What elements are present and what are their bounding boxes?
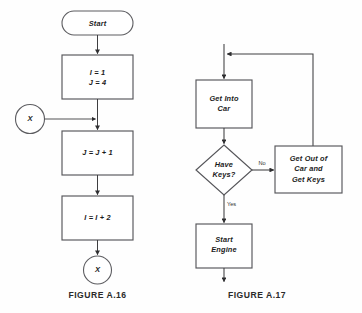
figure-a17-caption: FIGURE A.17	[228, 290, 286, 300]
process-box-increment-i-label: I = I + 2	[84, 213, 111, 222]
process-box-init-label-line2: J = 4	[89, 78, 106, 87]
process-box-get-out-of-car-label-line1: Get Out of	[290, 154, 329, 163]
process-box-init-label-line1: I = 1	[90, 68, 105, 77]
start-terminator-label: Start	[89, 19, 107, 28]
process-box-get-out-of-car-label-line3: Get Keys	[292, 175, 325, 184]
connector-circle-exit-label: X	[94, 265, 101, 274]
process-box-start-engine-label-line1: Start	[215, 235, 233, 244]
decision-diamond-have-keys-label-line1: Have	[215, 160, 233, 169]
connector-circle-entry-label: X	[26, 114, 33, 123]
figure-a17-group: Get Into Car Have Keys? No Get Out of Ca…	[196, 44, 342, 300]
figure-a16-group: Start I = 1 J = 4 X J = J + 1 I = I + 2	[16, 11, 134, 300]
process-box-get-into-car-label-line2: Car	[218, 104, 232, 113]
edge-label-no: No	[258, 160, 265, 166]
decision-diamond-have-keys-label-line2: Keys?	[213, 170, 236, 179]
process-box-increment-j-label: J = J + 1	[82, 148, 113, 157]
figure-a16-caption: FIGURE A.16	[68, 290, 126, 300]
edge-label-yes: Yes	[227, 201, 236, 207]
flowchart-figure-sheet: Start I = 1 J = 4 X J = J + 1 I = I + 2	[0, 0, 362, 313]
process-box-get-into-car-label-line1: Get Into	[209, 94, 238, 103]
flowchart-canvas: Start I = 1 J = 4 X J = J + 1 I = I + 2	[0, 0, 362, 313]
process-box-start-engine-label-line2: Engine	[211, 245, 237, 254]
process-box-get-out-of-car-label-line2: Car and	[294, 164, 323, 173]
